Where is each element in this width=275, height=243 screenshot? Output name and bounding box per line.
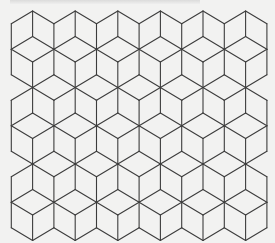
cube-edge <box>203 37 224 50</box>
cube-edge <box>203 75 224 88</box>
cube-edge <box>203 113 224 126</box>
cube-edge <box>182 37 203 50</box>
cube-edge <box>160 88 181 101</box>
cube-edge <box>11 88 32 101</box>
cube-edge <box>224 151 245 164</box>
cube-edge <box>54 37 75 50</box>
cube-edge <box>75 11 96 24</box>
cube-edge <box>11 202 32 215</box>
cube-edge <box>203 11 224 24</box>
cube-edge <box>203 151 224 164</box>
cube-edge <box>54 202 75 215</box>
cube-edge <box>246 37 267 50</box>
cube-edge <box>224 228 245 241</box>
cube-edge <box>33 37 54 50</box>
cube-edge <box>54 49 75 62</box>
cube-edge <box>75 151 96 164</box>
cube-edge <box>246 151 267 164</box>
cube-edge <box>33 11 54 24</box>
cube-edge <box>118 151 139 164</box>
cube-edge <box>160 190 181 203</box>
cube-edge <box>246 164 267 177</box>
cube-edge <box>182 126 203 139</box>
cube-edge <box>203 49 224 62</box>
cube-edge <box>224 49 245 62</box>
cube-edge <box>139 202 160 215</box>
cube-edge <box>139 190 160 203</box>
cube-edge <box>160 151 181 164</box>
cube-edge <box>118 88 139 101</box>
cube-edge <box>11 49 32 62</box>
cube-edge <box>118 75 139 88</box>
cube-edge <box>139 151 160 164</box>
cube-edge <box>139 228 160 241</box>
cube-edge <box>118 49 139 62</box>
cube-edge <box>75 190 96 203</box>
cube-edge <box>33 126 54 139</box>
cube-edge <box>33 88 54 101</box>
cube-edge <box>118 126 139 139</box>
cube-edge <box>118 37 139 50</box>
cube-edge <box>33 190 54 203</box>
cube-edge <box>54 164 75 177</box>
cube-edge <box>54 228 75 241</box>
cube-edge <box>224 126 245 139</box>
cube-edge <box>54 151 75 164</box>
cube-edge <box>246 49 267 62</box>
cube-edge <box>11 126 32 139</box>
cube-edge <box>246 190 267 203</box>
cube-edge <box>75 113 96 126</box>
cube-edge <box>118 113 139 126</box>
cube-edge <box>139 49 160 62</box>
cube-edge <box>224 37 245 50</box>
cube-edge <box>160 164 181 177</box>
cube-edge <box>246 113 267 126</box>
cube-edge <box>224 88 245 101</box>
cube-edge <box>97 151 118 164</box>
cube-edge <box>33 49 54 62</box>
cube-edge <box>97 113 118 126</box>
cube-edge <box>118 164 139 177</box>
cube-edge <box>139 37 160 50</box>
cube-edge <box>97 49 118 62</box>
cube-edge <box>11 75 32 88</box>
cube-edge <box>118 202 139 215</box>
cube-edge <box>97 88 118 101</box>
cube-edge <box>118 190 139 203</box>
cube-edge <box>224 113 245 126</box>
cube-edge <box>224 11 245 24</box>
cube-edge <box>118 11 139 24</box>
cube-edge <box>203 190 224 203</box>
cube-edge <box>11 113 32 126</box>
cube-edge <box>160 113 181 126</box>
cube-edge <box>182 11 203 24</box>
cube-edge <box>33 228 54 241</box>
cube-edge <box>11 164 32 177</box>
cube-edge <box>203 164 224 177</box>
cube-edge <box>75 75 96 88</box>
cube-edge <box>97 126 118 139</box>
cube-edge <box>97 11 118 24</box>
cube-edge <box>182 75 203 88</box>
cube-edge <box>97 202 118 215</box>
cube-edge <box>75 88 96 101</box>
cube-edge <box>203 202 224 215</box>
cube-edge <box>160 228 181 241</box>
cube-edges <box>11 11 267 241</box>
cube-edge <box>182 88 203 101</box>
cube-edge <box>160 49 181 62</box>
tumbling-blocks-pattern <box>0 0 275 243</box>
cube-edge <box>11 151 32 164</box>
cube-edge <box>54 75 75 88</box>
cube-edge <box>75 202 96 215</box>
cube-edge <box>182 228 203 241</box>
cube-edge <box>203 88 224 101</box>
cube-edge <box>97 164 118 177</box>
cube-edge <box>139 75 160 88</box>
cube-edge <box>11 190 32 203</box>
cube-edge <box>54 88 75 101</box>
cube-edge <box>139 126 160 139</box>
cube-edge <box>97 190 118 203</box>
cube-edge <box>75 126 96 139</box>
cube-edge <box>75 37 96 50</box>
